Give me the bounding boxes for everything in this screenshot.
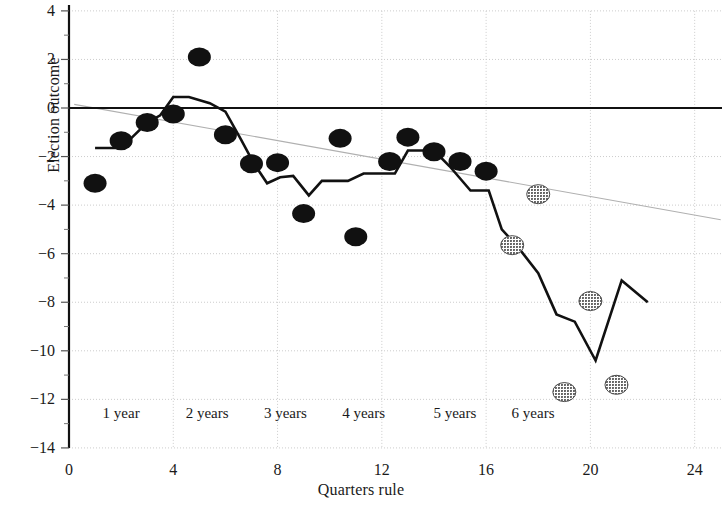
data-point-solid	[292, 204, 315, 223]
era-annotation: 6 years	[512, 406, 555, 421]
data-point-solid	[396, 128, 419, 147]
era-annotation: 4 years	[342, 406, 385, 421]
data-point-solid	[136, 113, 159, 132]
y-tick-label: −14	[0, 440, 55, 456]
x-tick-label: 0	[65, 462, 73, 478]
data-point-solid	[329, 129, 352, 148]
data-point-solid	[110, 131, 133, 150]
data-point-solid	[240, 154, 263, 173]
x-tick-label: 8	[274, 462, 282, 478]
x-tick-label: 4	[169, 462, 177, 478]
data-point-solid	[475, 162, 498, 181]
data-point-solid	[266, 153, 289, 172]
x-tick-label: 12	[374, 462, 390, 478]
x-tick-label: 16	[478, 462, 494, 478]
y-tick-label: −10	[0, 343, 55, 359]
data-point-markers	[84, 48, 628, 402]
data-point-solid	[378, 152, 401, 171]
era-annotation: 3 years	[264, 406, 307, 421]
series-line-path	[95, 97, 648, 360]
data-point-solid	[214, 125, 237, 144]
data-point-solid	[84, 174, 107, 193]
era-annotation: 2 years	[186, 406, 229, 421]
smoothed-series-line	[95, 97, 648, 360]
data-point-solid	[449, 152, 472, 171]
y-axis-title: Election outcome	[45, 0, 63, 265]
data-point-solid	[344, 227, 367, 246]
data-point-shaded	[579, 292, 602, 311]
plot-area	[0, 0, 722, 515]
chart-root: 420−2−4−6−8−10−12−14 04812162024 1 year2…	[0, 0, 722, 515]
era-annotation: 1 year	[103, 406, 140, 421]
era-annotation: 5 years	[433, 406, 476, 421]
data-point-solid	[162, 105, 185, 124]
x-tick-label: 20	[582, 462, 598, 478]
y-tick-label: −12	[0, 391, 55, 407]
data-point-solid	[422, 142, 445, 161]
data-point-solid	[188, 48, 211, 67]
data-point-shaded	[501, 236, 524, 255]
x-axis-title: Quarters rule	[0, 481, 722, 499]
data-point-shaded	[527, 185, 550, 204]
data-point-shaded	[553, 383, 576, 402]
x-tick-label: 24	[687, 462, 703, 478]
data-point-shaded	[605, 375, 628, 394]
y-tick-label: −8	[0, 294, 55, 310]
